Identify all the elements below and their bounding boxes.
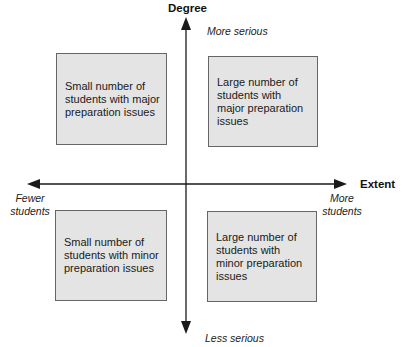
- horizontal-axis-right-label: More students: [320, 192, 364, 218]
- quadrant-top-right-text: Large number of students with major prep…: [209, 76, 317, 128]
- vertical-axis-bottom-label: Less serious: [205, 332, 264, 345]
- quadrant-bottom-right-text: Large number of students with minor prep…: [208, 231, 316, 283]
- quadrant-bottom-right: Large number of students with minor prep…: [207, 211, 317, 302]
- horizontal-axis-left-label: Fewer students: [8, 192, 52, 218]
- vertical-axis-down-arrowhead: [181, 321, 191, 334]
- quadrant-top-left: Small number of students with major prep…: [56, 53, 167, 145]
- horizontal-axis-left-arrowhead: [27, 179, 40, 189]
- horizontal-axis-title: Extent: [360, 178, 395, 190]
- quadrant-bottom-left-text: Small number of students with minor prep…: [56, 236, 166, 275]
- vertical-axis-top-label: More serious: [207, 25, 268, 38]
- quadrant-top-left-text: Small number of students with major prep…: [57, 80, 166, 119]
- quadrant-top-right: Large number of students with major prep…: [208, 56, 318, 147]
- vertical-axis-title: Degree: [168, 2, 207, 14]
- vertical-axis-up-arrowhead: [181, 17, 191, 30]
- quadrant-bottom-left: Small number of students with minor prep…: [55, 210, 167, 301]
- horizontal-axis-right-arrowhead: [334, 179, 347, 189]
